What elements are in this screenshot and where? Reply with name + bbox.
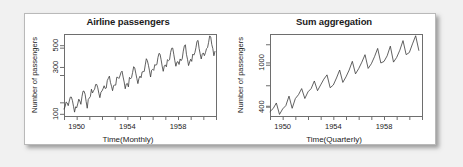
svg-text:400: 400: [257, 100, 266, 113]
svg-text:500: 500: [51, 39, 60, 52]
plot-area-left: 100300500195019541958Number of passenger…: [25, 14, 231, 146]
svg-text:1954: 1954: [325, 122, 342, 131]
svg-text:300: 300: [51, 61, 60, 74]
chart-panel-sum-aggregation: Sum aggregation 4001000195019541958Numbe…: [231, 14, 437, 146]
svg-text:100: 100: [51, 108, 60, 121]
svg-text:1954: 1954: [119, 122, 136, 131]
svg-text:Number of passengers: Number of passengers: [236, 37, 245, 113]
x-axis-label-right: Time(Quarterly): [231, 135, 437, 144]
svg-text:1950: 1950: [68, 122, 85, 131]
svg-text:1000: 1000: [257, 54, 266, 71]
chart-panel-airline-passengers: Airline passengers 100300500195019541958…: [25, 14, 231, 146]
svg-text:1958: 1958: [170, 122, 187, 131]
svg-text:Number of passengers: Number of passengers: [30, 37, 39, 113]
svg-text:1950: 1950: [274, 122, 291, 131]
x-axis-label-left: Time(Monthly): [25, 135, 231, 144]
figure-card: Airline passengers 100300500195019541958…: [24, 13, 436, 145]
svg-text:1958: 1958: [376, 122, 393, 131]
plot-area-right: 4001000195019541958Number of passengers: [231, 14, 437, 146]
